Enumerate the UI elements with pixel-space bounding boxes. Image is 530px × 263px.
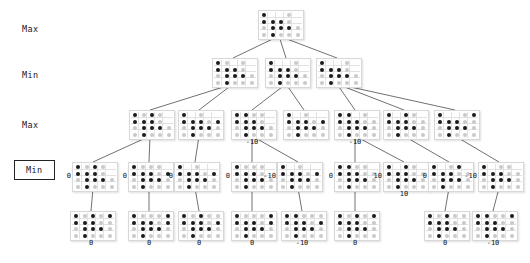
light-disc-icon — [269, 185, 273, 189]
empty-cell — [329, 61, 333, 65]
empty-cell — [110, 172, 114, 176]
light-disc-icon — [207, 234, 211, 238]
board-node[interactable] — [129, 110, 175, 140]
dark-disc-icon — [108, 214, 112, 218]
dark-disc-icon — [195, 172, 199, 176]
light-disc-icon — [110, 178, 114, 182]
board-cell — [410, 132, 418, 139]
dark-disc-icon — [216, 221, 220, 225]
board-node[interactable] — [334, 211, 380, 241]
board-cell — [352, 80, 360, 87]
board-cell — [275, 80, 283, 87]
dark-disc-icon — [347, 120, 351, 124]
board-grid — [385, 112, 427, 138]
board-cell — [488, 184, 496, 191]
board-cell — [343, 80, 351, 87]
board-cell — [106, 233, 114, 240]
dark-disc-icon — [141, 172, 145, 176]
dark-disc-icon — [244, 126, 248, 130]
board-cell — [241, 233, 249, 240]
board-cell — [258, 184, 266, 191]
board-node[interactable] — [265, 58, 311, 88]
game-tree-figure: MaxMinMaxMin -10-100000-10010100-100000-… — [0, 0, 530, 263]
board-cell — [419, 184, 427, 191]
dark-disc-icon — [271, 20, 275, 24]
light-disc-icon — [244, 165, 248, 169]
empty-cell — [441, 165, 445, 169]
node-value: 0 — [443, 239, 447, 247]
board-node[interactable] — [70, 211, 116, 241]
light-disc-icon — [321, 126, 325, 130]
light-disc-icon — [510, 227, 514, 231]
board-cell — [370, 132, 378, 139]
dark-disc-icon — [347, 165, 351, 169]
board-node[interactable] — [478, 162, 524, 192]
dark-disc-icon — [281, 172, 285, 176]
board-cell — [138, 184, 146, 191]
board-node[interactable] — [72, 162, 118, 192]
level-label-min-3: Min — [14, 160, 55, 180]
light-disc-icon — [262, 33, 266, 37]
light-disc-icon — [482, 185, 486, 189]
dark-disc-icon — [437, 227, 441, 231]
board-node[interactable] — [212, 58, 258, 88]
light-disc-icon — [235, 234, 239, 238]
light-disc-icon — [149, 185, 153, 189]
light-disc-icon — [453, 234, 457, 238]
dark-disc-icon — [355, 178, 359, 182]
light-disc-icon — [463, 113, 467, 117]
dark-disc-icon — [404, 113, 408, 117]
board-cell — [74, 184, 82, 191]
board-node[interactable] — [128, 162, 174, 192]
light-disc-icon — [285, 227, 289, 231]
board-node[interactable] — [277, 162, 323, 192]
light-disc-icon — [216, 214, 220, 218]
light-disc-icon — [178, 178, 182, 182]
dark-disc-icon — [191, 221, 195, 225]
dark-disc-icon — [149, 172, 153, 176]
board-cell — [304, 184, 312, 191]
dark-disc-icon — [321, 120, 325, 124]
board-cell — [301, 80, 309, 87]
node-value: 0 — [423, 172, 427, 180]
node-value: -10 — [487, 239, 500, 247]
light-disc-icon — [101, 172, 105, 176]
light-disc-icon — [199, 113, 203, 117]
board-node[interactable] — [178, 110, 224, 140]
light-disc-icon — [363, 120, 367, 124]
board-node[interactable] — [434, 110, 480, 140]
dark-disc-icon — [412, 126, 416, 130]
board-node[interactable] — [231, 211, 277, 241]
board-node[interactable] — [383, 110, 429, 140]
board-node[interactable] — [174, 162, 220, 192]
dark-disc-icon — [457, 165, 461, 169]
light-disc-icon — [235, 126, 239, 130]
board-node[interactable] — [231, 110, 277, 140]
light-disc-icon — [166, 227, 170, 231]
dark-disc-icon — [493, 227, 497, 231]
board-cell — [370, 184, 378, 191]
dark-disc-icon — [491, 185, 495, 189]
light-disc-icon — [493, 214, 497, 218]
dark-disc-icon — [132, 165, 136, 169]
light-disc-icon — [157, 172, 161, 176]
board-node[interactable] — [128, 211, 174, 241]
dark-disc-icon — [271, 26, 275, 30]
empty-cell — [110, 165, 114, 169]
dark-disc-icon — [329, 81, 333, 85]
board-node[interactable] — [334, 110, 380, 140]
board-node[interactable] — [424, 211, 470, 241]
dark-disc-icon — [329, 74, 333, 78]
node-value: 0 — [226, 172, 230, 180]
board-node[interactable] — [178, 211, 224, 241]
board-node[interactable] — [258, 10, 304, 40]
board-node[interactable] — [472, 211, 518, 241]
light-disc-icon — [347, 214, 351, 218]
board-node[interactable] — [281, 211, 327, 241]
board-cell — [201, 184, 209, 191]
board-node[interactable] — [283, 110, 329, 140]
light-disc-icon — [133, 133, 137, 137]
board-node[interactable] — [316, 58, 362, 88]
dark-disc-icon — [182, 221, 186, 225]
empty-cell — [315, 165, 319, 169]
